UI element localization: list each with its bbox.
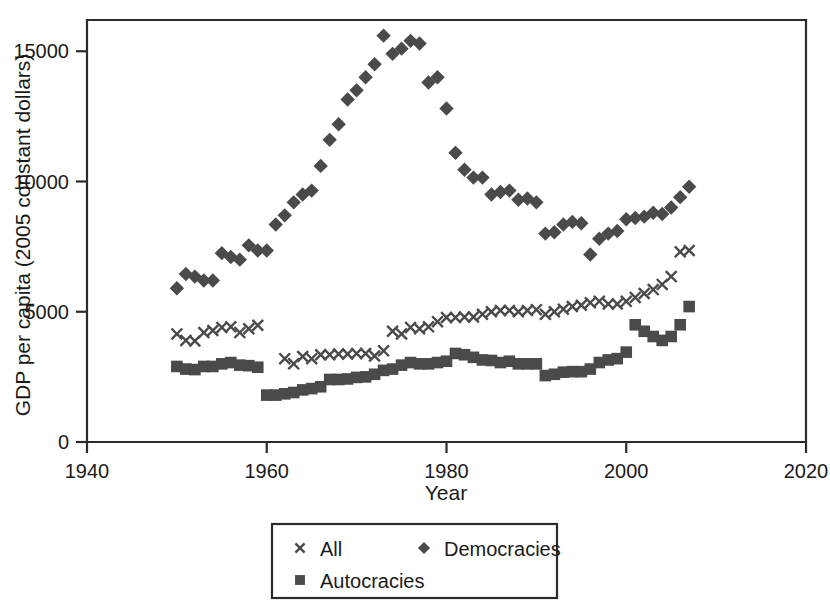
- data-point-x: [207, 325, 218, 336]
- x-tick-label: 1960: [245, 460, 290, 482]
- data-point-diamond: [340, 92, 354, 106]
- plot-border: [87, 20, 806, 442]
- data-point-x: [576, 300, 587, 311]
- data-point-x: [297, 351, 308, 362]
- data-point-x: [387, 326, 398, 337]
- x-tick-label: 2020: [784, 460, 829, 482]
- x-axis-ticks: 19401960198020002020: [65, 442, 829, 482]
- x-tick-label: 1940: [65, 460, 110, 482]
- data-point-diamond: [331, 117, 345, 131]
- data-point-diamond: [269, 217, 283, 231]
- x-axis-title: Year: [425, 481, 467, 504]
- chart-figure: 050001000015000 19401960198020002020 GDP…: [0, 0, 830, 612]
- plot-axes: [87, 20, 806, 442]
- data-point-x: [360, 348, 371, 359]
- data-point-diamond: [358, 70, 372, 84]
- data-point-square: [665, 331, 677, 343]
- x-tick-label: 1980: [424, 460, 469, 482]
- y-axis-title: GDP per capita (2005 constant dollars): [11, 54, 34, 417]
- data-point-x: [414, 323, 425, 334]
- data-point-diamond: [682, 180, 696, 194]
- data-point-diamond: [583, 247, 597, 261]
- data-point-square: [295, 575, 305, 585]
- series-all: [171, 245, 694, 369]
- data-point-diamond: [574, 216, 588, 230]
- data-point-x: [252, 320, 263, 331]
- data-point-diamond: [278, 208, 292, 222]
- data-point-square: [620, 346, 632, 358]
- data-point-x: [396, 328, 407, 339]
- legend-label-autocracies: Autocracies: [320, 570, 425, 592]
- data-point-diamond: [206, 273, 220, 287]
- data-point-x: [666, 271, 677, 282]
- data-point-x: [225, 321, 236, 332]
- data-point-diamond: [502, 183, 516, 197]
- data-point-diamond: [170, 281, 184, 295]
- data-point-square: [252, 361, 264, 373]
- data-point-square: [674, 319, 686, 331]
- data-point-diamond: [439, 101, 453, 115]
- data-point-diamond: [448, 146, 462, 160]
- y-tick-label: 0: [58, 431, 69, 453]
- data-point-x: [477, 309, 488, 320]
- data-point-diamond: [475, 170, 489, 184]
- data-point-diamond: [349, 83, 363, 97]
- gdp-per-capita-scatter-chart: 050001000015000 19401960198020002020 GDP…: [0, 0, 830, 612]
- legend-label-democracies: Democracies: [444, 538, 561, 560]
- data-point-square: [531, 358, 543, 370]
- data-point-x: [594, 296, 605, 307]
- data-point-diamond: [322, 133, 336, 147]
- data-point-x: [468, 312, 479, 323]
- series-democracies: [170, 28, 697, 295]
- data-point-diamond: [673, 190, 687, 204]
- data-point-square: [683, 301, 695, 313]
- data-point-x: [549, 306, 560, 317]
- data-point-diamond: [313, 159, 327, 173]
- legend-label-all: All: [320, 538, 342, 560]
- data-point-x: [612, 299, 623, 310]
- data-point-diamond: [260, 243, 274, 257]
- data-point-diamond: [367, 57, 381, 71]
- data-point-x: [171, 328, 182, 339]
- data-point-x: [198, 327, 209, 338]
- chart-legend: AllDemocraciesAutocracies: [272, 524, 561, 598]
- data-point-diamond: [376, 28, 390, 42]
- data-point-x: [684, 245, 695, 256]
- x-tick-label: 2000: [604, 460, 649, 482]
- data-point-x: [558, 304, 569, 315]
- data-series-layer: [170, 28, 697, 400]
